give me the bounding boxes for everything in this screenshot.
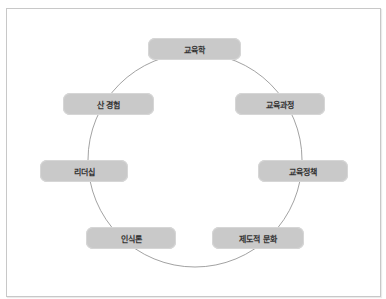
- node-right: 교육정책: [258, 160, 348, 182]
- node-upper-right: 교육과정: [235, 93, 325, 115]
- node-label: 리더십: [74, 166, 95, 177]
- node-lower-right: 제도적 문화: [212, 227, 304, 249]
- node-upper-left: 산 경험: [63, 93, 154, 115]
- node-label: 교육학: [184, 44, 205, 55]
- node-left: 리더십: [40, 160, 128, 182]
- node-label: 제도적 문화: [239, 233, 277, 244]
- node-label: 교육과정: [266, 99, 294, 110]
- node-label: 산 경험: [97, 99, 121, 110]
- node-label: 인식론: [121, 233, 142, 244]
- node-top: 교육학: [148, 38, 241, 60]
- node-label: 교육정책: [289, 166, 317, 177]
- node-lower-left: 인식론: [86, 227, 176, 249]
